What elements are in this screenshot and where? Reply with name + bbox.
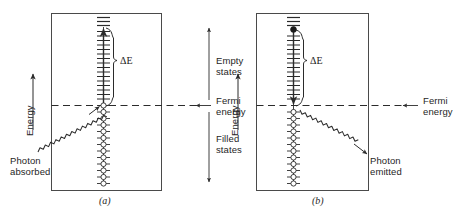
panel-a-empty-states-label-line2: states — [216, 66, 242, 77]
panel-a-empty-states-label-line1: Empty — [216, 55, 243, 66]
panel-b-photon-label-line1: Photon — [370, 155, 401, 166]
panel-b-energy-label: Energy — [229, 105, 240, 136]
panel-a-photon-label-line1: Photon — [10, 155, 41, 166]
panel-b-delta-e-label: ΔE — [310, 55, 323, 66]
panel-b-box — [257, 14, 369, 191]
panel-b-fermi-label-line1: Fermi — [423, 95, 448, 106]
panel-a-filled-states-label-line2: states — [216, 144, 242, 155]
panel-a-top-levels — [97, 18, 110, 26]
panel-b-caption: (b) — [312, 195, 324, 206]
panel-b-photon-arrow — [354, 144, 367, 154]
panel-a-photon-wave — [38, 115, 107, 152]
panel-a-photon-label-line2: absorbed — [10, 166, 50, 177]
panel-a-energy-label: Energy — [24, 105, 35, 136]
panel-b-photon-wave — [300, 110, 358, 141]
panel-b-top-levels — [287, 18, 300, 26]
panel-b-photon-label-line2: emitted — [370, 166, 402, 177]
panel-a-caption: (a) — [99, 195, 111, 206]
panel-b-excited-electron — [291, 27, 297, 33]
panel-a-delta-e-label: ΔE — [120, 55, 133, 66]
panel-b-fermi-label-line2: energy — [423, 106, 453, 117]
panel-a — [33, 14, 211, 191]
panel-a-photon-arrow — [89, 107, 100, 115]
